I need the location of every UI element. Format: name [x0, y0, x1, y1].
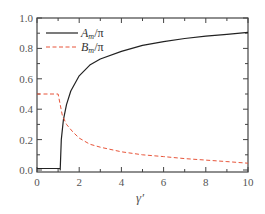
x-tick-label: 4 — [119, 176, 125, 188]
plot-area-border — [37, 18, 248, 172]
line-chart: 02468100.00.20.40.60.81.0 Am/πBm/π γ′ — [0, 0, 265, 214]
y-tick-label: 1.0 — [19, 12, 33, 24]
x-axis-label: γ′ — [136, 190, 144, 205]
x-tick-label: 0 — [34, 176, 40, 188]
y-tick-label: 0.4 — [19, 103, 33, 115]
series-bm-line — [37, 94, 248, 163]
axis-ticks: 02468100.00.20.40.60.81.0 — [19, 12, 254, 188]
series-am-line — [37, 32, 248, 170]
legend-label: Am/π — [80, 26, 104, 41]
x-tick-label: 6 — [161, 176, 167, 188]
y-tick-label: 0.0 — [19, 164, 33, 176]
data-series — [37, 32, 248, 170]
plot-frame — [37, 18, 248, 172]
legend: Am/πBm/π — [46, 26, 104, 55]
x-tick-label: 2 — [76, 176, 82, 188]
y-tick-label: 0.6 — [19, 73, 33, 85]
x-tick-label: 10 — [243, 176, 255, 188]
x-tick-label: 8 — [203, 176, 209, 188]
y-tick-label: 0.2 — [19, 134, 33, 146]
legend-label: Bm/π — [81, 40, 104, 55]
y-tick-label: 0.8 — [19, 42, 33, 54]
